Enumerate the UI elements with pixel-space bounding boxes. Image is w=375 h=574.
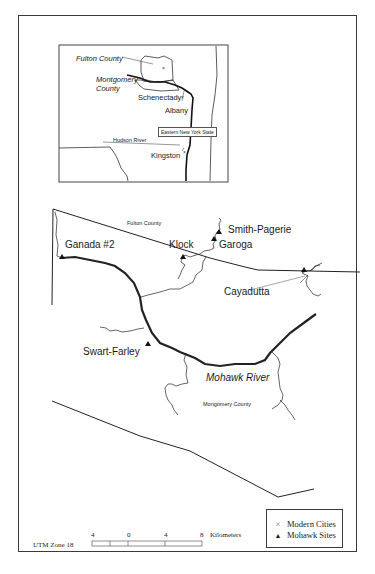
inset-label-schenectady: Schenectady [138,94,181,102]
legend-item-mohawk-sites: ▲Mohawk Sites [273,530,336,540]
svg-text:×: × [162,65,165,71]
site-label-klock: Klock [169,240,193,250]
map-graphics: × × × [0,0,375,574]
inset-label-kingston: Kingston [151,152,180,160]
inset-label-albany: Albany [165,107,188,115]
site-label-garoga: Garoga [219,240,252,250]
svg-text:×: × [183,149,186,155]
inset-label-hudson-river: Hudson River [113,138,146,144]
river-label-mohawk: Mohawk River [206,373,269,383]
legend-label-mohawk-sites: Mohawk Sites [287,530,336,540]
scale-projection: UTM Zone 18 [33,541,73,549]
legend-item-modern-cities: ×Modern Cities [273,519,336,529]
scale-bar [92,541,202,546]
county-label-fulton: Fulton County [127,221,161,227]
scale-tick-1: 0 [127,531,131,539]
scale-tick-2: 4 [164,531,168,539]
site-label-cayadutta: Cayadutta [224,287,270,297]
triangle-icon: ▲ [273,532,283,540]
legend-label-modern-cities: Modern Cities [287,519,336,529]
map-legend: ×Modern Cities ▲Mohawk Sites [266,509,343,548]
site-label-smith-pagerie: Smith-Pagerie [228,225,291,235]
scale-tick-3: 8 [200,531,204,539]
scale-tick-0: 4 [91,531,95,539]
x-mark-icon: × [273,519,283,529]
site-label-ganada: Ganada #2 [65,240,115,250]
inset-map [59,45,228,182]
svg-text:×: × [181,94,184,100]
inset-label-fulton-county: Fulton County [76,55,123,63]
inset-region-box: Eastern New York State [158,127,217,137]
inset-label-montgomery-line1: Montgomery [96,76,138,84]
site-label-swart-farley: Swart-Farley [83,347,140,357]
county-label-montgomery: Mongomery County [203,402,251,408]
scale-unit: Kilometers [210,531,241,539]
inset-label-montgomery-line2: County [96,85,120,93]
